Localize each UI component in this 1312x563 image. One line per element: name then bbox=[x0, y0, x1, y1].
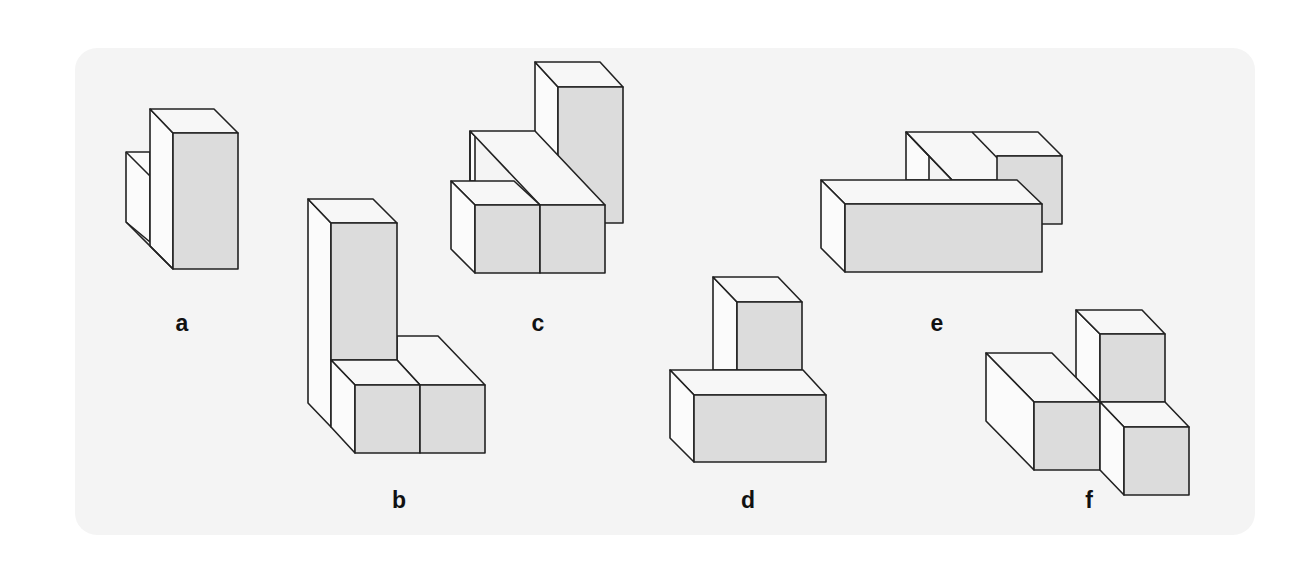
label-f: f bbox=[1085, 489, 1093, 512]
shape-b-column-side-face bbox=[308, 199, 331, 427]
label-e: e bbox=[931, 312, 944, 335]
shape-b-column-front-face bbox=[331, 223, 397, 360]
label-c: c bbox=[532, 312, 545, 335]
shape-d-top-block-front-face bbox=[737, 302, 802, 370]
label-d: d bbox=[741, 489, 755, 512]
shape-f-right-cube-front-face bbox=[1124, 427, 1189, 495]
label-b: b bbox=[392, 489, 406, 512]
shape-d bbox=[670, 277, 826, 462]
shape-d-base-top-face bbox=[670, 370, 826, 395]
shape-e bbox=[821, 132, 1062, 272]
label-a: a bbox=[176, 312, 189, 335]
shape-e-front-face bbox=[845, 204, 1042, 272]
shape-c bbox=[451, 62, 623, 273]
shape-b-cube-front-face-1 bbox=[355, 385, 420, 453]
shape-f bbox=[986, 310, 1189, 495]
shape-c-front-face-2 bbox=[540, 205, 605, 273]
shape-f-top-cube-front-face bbox=[1100, 334, 1165, 402]
block-figures bbox=[0, 0, 1312, 563]
shape-d-base-front-face bbox=[694, 395, 826, 462]
shape-b-cube-front-face-2 bbox=[420, 385, 485, 453]
shape-f-bar-front-face bbox=[1034, 402, 1100, 470]
shape-a-front-face bbox=[173, 133, 238, 269]
shape-a bbox=[126, 109, 238, 269]
shape-c-front-face-1 bbox=[475, 205, 540, 273]
shape-e-front-top-face bbox=[821, 180, 1042, 204]
shape-a-side-face bbox=[150, 109, 173, 269]
shape-a-small-side-face bbox=[126, 152, 150, 242]
